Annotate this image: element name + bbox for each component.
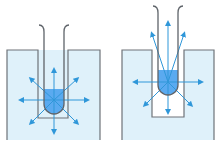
figure-canvas xyxy=(0,0,224,149)
panel-right xyxy=(122,6,214,140)
diffusion-diagram xyxy=(0,0,224,149)
panel-left xyxy=(7,25,100,140)
